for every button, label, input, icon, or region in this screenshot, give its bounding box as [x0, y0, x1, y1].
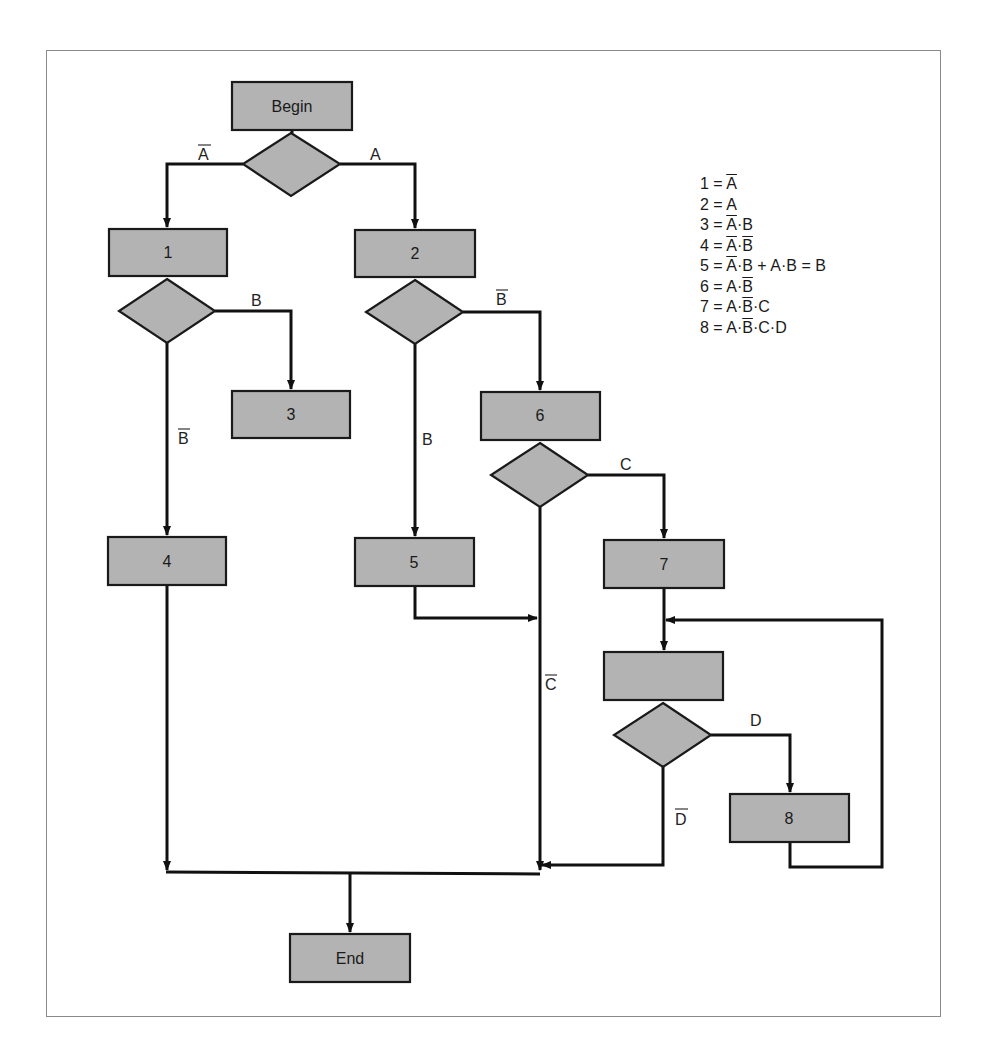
edge-label-b-right: B [422, 431, 433, 448]
flowchart: Begin 1 2 3 6 4 5 7 [0, 0, 983, 1044]
decision-c[interactable] [491, 443, 588, 507]
legend-number: 2 = [700, 196, 726, 213]
edge-label-b-left: B [251, 292, 262, 309]
end-node[interactable]: End [290, 934, 410, 982]
decision-b-right[interactable] [366, 280, 463, 344]
process-2[interactable]: 2 [355, 230, 475, 277]
legend-number: 6 = [700, 278, 726, 295]
legend-number: 8 = [700, 319, 726, 336]
svg-text:1: 1 [164, 244, 173, 261]
legend-term-negated: A [726, 216, 737, 233]
legend-row: 8 = A·B·C·D [700, 318, 826, 339]
process-5[interactable]: 5 [355, 538, 474, 586]
edge-label-a: A [370, 146, 381, 163]
legend-term: A [726, 196, 737, 213]
legend-term: ·C [753, 298, 770, 315]
svg-text:2: 2 [411, 245, 420, 262]
legend-term-negated: B [742, 319, 753, 336]
decision-b-left[interactable] [119, 279, 215, 343]
svg-text:B: B [178, 430, 189, 447]
legend-row: 1 = A [700, 174, 826, 195]
legend-term-negated: A [726, 237, 737, 254]
legend-term: A· [726, 278, 742, 295]
svg-text:End: End [336, 950, 364, 967]
legend-term: B [742, 216, 753, 233]
legend-term-negated: B [742, 237, 753, 254]
decision-d[interactable] [614, 703, 711, 767]
svg-text:6: 6 [536, 407, 545, 424]
legend-row: 6 = A·B [700, 277, 826, 298]
legend-term: + A·B = B [753, 257, 826, 274]
svg-text:D: D [675, 811, 687, 828]
svg-text:B: B [496, 291, 507, 308]
legend-term-negated: A [726, 257, 737, 274]
edge-label-not-b-right: B [496, 290, 508, 308]
legend-row: 3 = A·B [700, 215, 826, 236]
begin-node[interactable]: Begin [232, 82, 352, 130]
legend: 1 = A2 = A3 = A·B4 = A·B5 = A·B + A·B = … [700, 174, 826, 338]
process-6[interactable]: 6 [481, 392, 600, 440]
edge-label-not-a: A [198, 145, 211, 163]
process-8[interactable]: 8 [730, 794, 849, 842]
legend-row: 7 = A·B·C [700, 297, 826, 318]
legend-term: A· [726, 319, 742, 336]
decision-a[interactable] [243, 133, 340, 196]
edge-label-c: C [620, 456, 632, 473]
edge-label-not-b-left: B [178, 429, 190, 447]
legend-term: ·C·D [753, 319, 787, 336]
process-unlabeled[interactable] [604, 652, 723, 700]
svg-text:C: C [545, 676, 557, 693]
legend-term: B [742, 257, 753, 274]
svg-text:4: 4 [163, 553, 172, 570]
svg-text:Begin: Begin [272, 98, 313, 115]
legend-row: 2 = A [700, 195, 826, 216]
legend-term-negated: B [742, 278, 753, 295]
legend-number: 5 = [700, 257, 726, 274]
process-1[interactable]: 1 [109, 229, 227, 276]
process-3[interactable]: 3 [232, 391, 350, 438]
edge-label-not-d: D [675, 809, 688, 828]
svg-text:5: 5 [410, 554, 419, 571]
legend-row: 5 = A·B + A·B = B [700, 256, 826, 277]
legend-term: A· [726, 298, 742, 315]
legend-term-negated: B [742, 298, 753, 315]
legend-row: 4 = A·B [700, 236, 826, 257]
svg-text:3: 3 [287, 406, 296, 423]
edge-label-not-c: C [545, 675, 557, 693]
svg-text:A: A [198, 146, 209, 163]
process-7[interactable]: 7 [604, 540, 724, 588]
legend-number: 1 = [700, 175, 726, 192]
legend-number: 4 = [700, 237, 726, 254]
process-4[interactable]: 4 [108, 537, 226, 585]
legend-number: 7 = [700, 298, 726, 315]
svg-text:8: 8 [785, 810, 794, 827]
legend-term-negated: A [726, 175, 737, 192]
svg-text:7: 7 [660, 556, 669, 573]
legend-number: 3 = [700, 216, 726, 233]
edge-label-d: D [750, 712, 762, 729]
